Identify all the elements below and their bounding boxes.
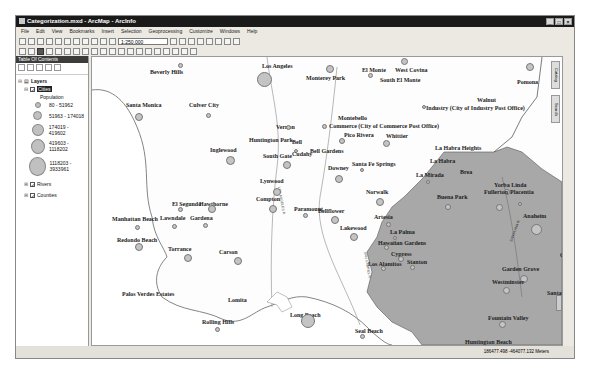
redo-icon[interactable] <box>100 38 107 45</box>
menu-windows[interactable]: Windows <box>220 27 240 36</box>
python-window-icon[interactable] <box>215 38 222 45</box>
city-point-symbol[interactable] <box>518 202 522 206</box>
city-point-symbol[interactable] <box>383 140 390 147</box>
html-popup-icon[interactable] <box>136 48 143 55</box>
collapse-icon[interactable]: ⊟ <box>24 86 28 92</box>
city-point-symbol[interactable] <box>301 314 315 328</box>
close-button[interactable]: × <box>564 18 572 25</box>
layers-root[interactable]: ⊟ ▤ Layers <box>18 77 86 85</box>
city-point-symbol[interactable] <box>381 266 386 271</box>
city-point-symbol[interactable] <box>208 205 216 213</box>
city-point-symbol[interactable] <box>360 334 365 339</box>
hyperlink-icon[interactable] <box>127 48 134 55</box>
menu-bookmarks[interactable]: Bookmarks <box>69 27 94 36</box>
back-extent-icon[interactable] <box>73 48 80 55</box>
catalog-tab[interactable]: Catalog <box>551 61 560 89</box>
city-point-symbol[interactable] <box>269 205 277 213</box>
maximize-button[interactable]: □ <box>555 18 563 25</box>
collapse-icon[interactable]: ⊟ <box>18 78 22 84</box>
list-by-selection-icon[interactable] <box>45 64 52 71</box>
menu-selection[interactable]: Selection <box>121 27 142 36</box>
city-point-symbol[interactable] <box>303 213 308 218</box>
fixed-zoom-in-icon[interactable] <box>55 48 62 55</box>
menu-file[interactable]: File <box>21 27 29 36</box>
city-point-symbol[interactable] <box>350 233 358 241</box>
catalog-window-icon[interactable] <box>188 38 195 45</box>
menu-view[interactable]: View <box>52 27 63 36</box>
city-point-symbol[interactable] <box>234 257 242 265</box>
whats-this-icon[interactable] <box>233 38 240 45</box>
city-point-symbol[interactable] <box>422 105 426 109</box>
city-point-symbol[interactable] <box>386 222 391 227</box>
arctoolbox-icon[interactable] <box>206 38 213 45</box>
map-scale-dropdown[interactable]: 1:250,000 <box>118 38 168 45</box>
list-by-drawing-order-icon[interactable] <box>18 64 25 71</box>
city-point-symbol[interactable] <box>526 63 534 71</box>
pan-icon[interactable] <box>37 48 44 55</box>
search-window-icon[interactable] <box>197 38 204 45</box>
city-point-symbol[interactable] <box>322 124 327 129</box>
modelbuilder-icon[interactable] <box>224 38 231 45</box>
city-point-symbol[interactable] <box>368 73 373 78</box>
print-icon[interactable] <box>46 38 53 45</box>
zoom-in-icon[interactable] <box>19 48 26 55</box>
fixed-zoom-out-icon[interactable] <box>64 48 71 55</box>
identify-icon[interactable] <box>118 48 125 55</box>
city-point-symbol[interactable] <box>384 245 389 250</box>
city-point-symbol[interactable] <box>178 207 183 212</box>
city-point-symbol[interactable] <box>326 65 334 73</box>
expand-icon[interactable]: ⊞ <box>24 192 28 198</box>
open-icon[interactable] <box>28 38 35 45</box>
search-tab[interactable]: Search <box>551 95 560 123</box>
layer-rivers[interactable]: ⊞ ✓ Rivers <box>24 180 86 188</box>
list-by-visibility-icon[interactable] <box>36 64 43 71</box>
forward-extent-icon[interactable] <box>82 48 89 55</box>
city-point-symbol[interactable] <box>178 63 183 68</box>
create-viewer-icon[interactable] <box>190 48 197 55</box>
menu-geoprocessing[interactable]: Geoprocessing <box>149 27 183 36</box>
city-point-symbol[interactable] <box>376 198 384 206</box>
city-point-symbol[interactable] <box>135 113 143 121</box>
expand-icon[interactable]: ⊞ <box>24 181 28 187</box>
city-point-symbol[interactable] <box>496 204 503 211</box>
full-extent-icon[interactable] <box>46 48 53 55</box>
city-point-symbol[interactable] <box>331 216 339 224</box>
cut-icon[interactable] <box>55 38 62 45</box>
city-point-symbol[interactable] <box>499 321 506 328</box>
city-point-symbol[interactable] <box>335 175 343 183</box>
city-point-symbol[interactable] <box>184 254 192 262</box>
add-data-icon[interactable] <box>109 38 116 45</box>
undo-icon[interactable] <box>91 38 98 45</box>
city-point-symbol[interactable] <box>531 224 542 235</box>
city-point-symbol[interactable] <box>206 113 211 118</box>
copy-icon[interactable] <box>64 38 71 45</box>
city-point-symbol[interactable] <box>273 188 281 196</box>
select-features-icon[interactable] <box>91 48 98 55</box>
city-point-symbol[interactable] <box>286 125 291 130</box>
city-point-symbol[interactable] <box>135 225 140 230</box>
table-of-contents-icon[interactable] <box>179 38 186 45</box>
editor-toolbar-icon[interactable] <box>170 38 177 45</box>
find-route-icon[interactable] <box>163 48 170 55</box>
city-point-symbol[interactable] <box>445 204 451 210</box>
new-icon[interactable] <box>19 38 26 45</box>
go-to-xy-icon[interactable] <box>172 48 179 55</box>
city-point-symbol[interactable] <box>135 243 143 251</box>
city-point-symbol[interactable] <box>339 138 345 144</box>
city-point-symbol[interactable] <box>426 180 430 184</box>
time-slider-icon[interactable] <box>181 48 188 55</box>
menu-edit[interactable]: Edit <box>36 27 45 36</box>
city-point-symbol[interactable] <box>283 161 291 169</box>
city-point-symbol[interactable] <box>257 72 272 87</box>
city-point-symbol[interactable] <box>215 327 220 332</box>
clear-selection-icon[interactable] <box>100 48 107 55</box>
menu-customize[interactable]: Customize <box>189 27 213 36</box>
layer-counties[interactable]: ⊞ ✓ Counties <box>24 191 86 199</box>
city-point-symbol[interactable] <box>360 168 364 172</box>
city-point-symbol[interactable] <box>410 265 415 270</box>
layer-visibility-checkbox[interactable]: ✓ <box>30 87 35 92</box>
measure-icon[interactable] <box>145 48 152 55</box>
menu-help[interactable]: Help <box>247 27 257 36</box>
find-icon[interactable] <box>154 48 161 55</box>
city-point-symbol[interactable] <box>172 224 177 229</box>
